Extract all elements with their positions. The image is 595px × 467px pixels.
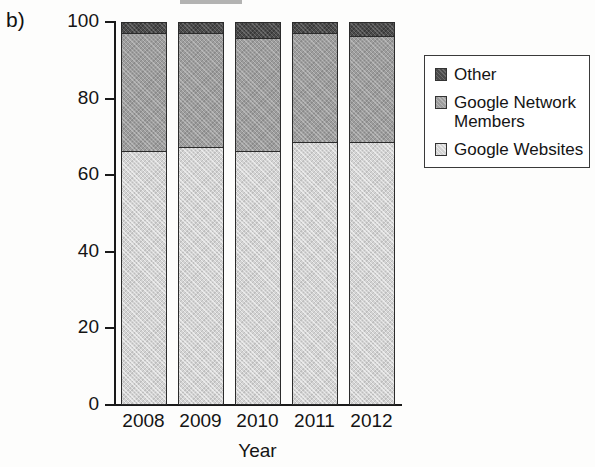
y-tick-label-20: 20 <box>53 316 99 338</box>
y-tick-20 <box>105 327 114 329</box>
x-tick-label-2011: 2011 <box>285 410 345 432</box>
y-tick-label-100: 100 <box>53 10 99 32</box>
x-tick-label-2008: 2008 <box>114 410 174 432</box>
x-axis-label: Year <box>115 440 400 462</box>
y-tick-60 <box>105 174 114 176</box>
y-tick-40 <box>105 251 114 253</box>
y-tick-label-60: 60 <box>53 163 99 185</box>
panel-label: b) <box>6 8 25 32</box>
y-tick-100 <box>105 21 114 23</box>
bar-segment-2008-google-network-members <box>122 33 166 152</box>
y-tick-label-80: 80 <box>53 87 99 109</box>
x-tick-label-2010: 2010 <box>228 410 288 432</box>
bar-2010[interactable] <box>235 22 281 405</box>
bar-segment-2008-google-websites <box>122 151 166 404</box>
y-tick-label-0: 0 <box>53 393 99 415</box>
plot-area <box>115 22 400 405</box>
scan-artifact <box>180 0 242 4</box>
bar-segment-2010-google-network-members <box>236 38 280 151</box>
chart-legend: OtherGoogle Network MembersGoogle Websit… <box>424 55 590 168</box>
x-tick-label-2012: 2012 <box>342 410 402 432</box>
bar-segment-2012-google-websites <box>350 142 394 404</box>
legend-label: Google Network Members <box>454 93 589 131</box>
legend-item-google-websites[interactable]: Google Websites <box>435 140 589 159</box>
websites-swatch-icon <box>435 143 447 156</box>
bar-segment-2011-google-websites <box>293 142 337 404</box>
bar-segment-2009-google-network-members <box>179 33 223 148</box>
bar-segment-2010-google-websites <box>236 151 280 404</box>
x-tick-label-2009: 2009 <box>171 410 231 432</box>
bar-segment-2011-other <box>293 22 337 33</box>
y-tick-80 <box>105 98 114 100</box>
bar-segment-2010-other <box>236 22 280 38</box>
other-swatch-icon <box>435 68 447 81</box>
bar-segment-2011-google-network-members <box>293 33 337 142</box>
bar-segment-2012-other <box>350 22 394 36</box>
y-tick-label-40: 40 <box>53 240 99 262</box>
bar-2011[interactable] <box>292 22 338 405</box>
legend-item-other[interactable]: Other <box>435 65 589 84</box>
bar-segment-2009-other <box>179 22 223 33</box>
bar-2009[interactable] <box>178 22 224 405</box>
y-tick-0 <box>105 404 114 406</box>
bar-segment-2012-google-network-members <box>350 36 394 141</box>
bar-2012[interactable] <box>349 22 395 405</box>
figure-panel-b: b) 020406080100 Percentage 2008200920102… <box>0 0 595 467</box>
legend-label: Google Websites <box>454 140 583 159</box>
network-swatch-icon <box>435 96 447 109</box>
legend-label: Other <box>454 65 497 84</box>
bar-segment-2009-google-websites <box>179 147 223 404</box>
bar-2008[interactable] <box>121 22 167 405</box>
legend-item-google-network-members[interactable]: Google Network Members <box>435 93 589 131</box>
bar-segment-2008-other <box>122 22 166 33</box>
